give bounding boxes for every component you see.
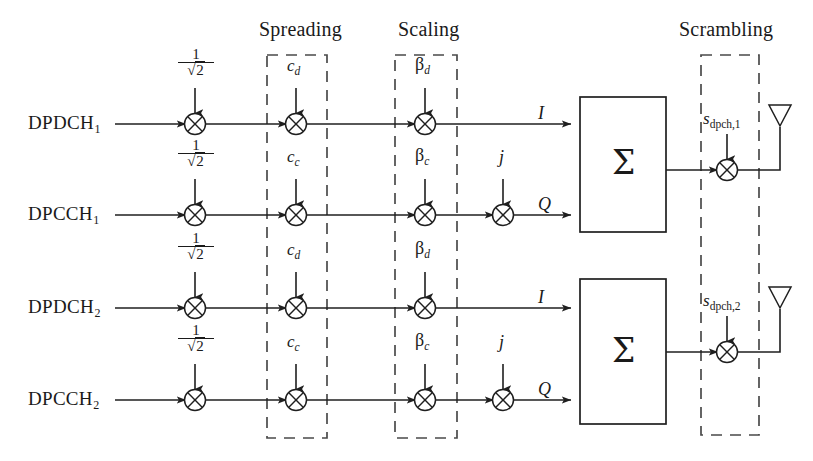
antenna-2-icon xyxy=(769,287,791,308)
gain-denominator: √2 xyxy=(178,154,214,169)
gain-denominator: √2 xyxy=(178,247,214,262)
beta-symbol: β xyxy=(415,330,424,350)
scrambling-code-label-1: sdpch,1 xyxy=(703,110,741,127)
input-label-subscript: 1 xyxy=(93,213,99,227)
branch-3-signal-path xyxy=(115,272,571,319)
input-label-dpcch-1: DPCCH1 xyxy=(28,204,99,223)
gain-label-4: 1 √2 xyxy=(178,323,214,355)
code-subscript: d xyxy=(295,249,301,261)
beta-symbol: β xyxy=(415,54,424,74)
code-symbol: c xyxy=(287,240,295,259)
input-label-dpcch-2: DPCCH2 xyxy=(28,389,99,408)
input-label-text: DPDCH xyxy=(28,296,94,317)
input-label-dpdch-2: DPDCH2 xyxy=(28,297,100,316)
beta-subscript: d xyxy=(424,64,430,76)
input-label-text: DPCCH xyxy=(28,203,93,224)
gain-label-2: 1 √2 xyxy=(178,138,214,170)
branch-4-signal-path xyxy=(115,364,571,411)
spreading-code-label-1: cd xyxy=(287,57,300,74)
spreading-code-label-2: cc xyxy=(287,148,300,165)
gain-radicand: 2 xyxy=(195,152,205,169)
beta-subscript: c xyxy=(424,155,429,167)
imaginary-unit-label-2: j xyxy=(499,148,504,166)
rail-label-i-1: I xyxy=(538,104,544,122)
scrambler-2-path xyxy=(666,309,780,363)
code-symbol: c xyxy=(287,332,295,351)
code-subscript: c xyxy=(295,341,300,353)
code-subscript: d xyxy=(295,65,301,77)
beta-symbol: β xyxy=(415,145,424,165)
rail-label-q-1: Q xyxy=(538,195,551,213)
gain-label-1: 1 √2 xyxy=(178,47,214,79)
input-label-dpdch-1: DPDCH1 xyxy=(28,113,100,132)
figure-canvas: Spreading Scaling Scrambling DPDCH1 1 √2… xyxy=(0,0,813,461)
gain-radicand: 2 xyxy=(195,245,205,262)
antenna-1-icon xyxy=(769,105,791,126)
scrambling-code-symbol: s xyxy=(703,109,710,128)
scrambling-code-label-2: sdpch,2 xyxy=(703,292,741,309)
scaling-gain-label-1: βd xyxy=(415,55,430,73)
beta-subscript: d xyxy=(424,248,430,260)
section-caption-scrambling: Scrambling xyxy=(679,19,773,39)
diagram-vector-layer xyxy=(0,0,813,461)
code-symbol: c xyxy=(287,147,295,166)
rail-label-i-2: I xyxy=(538,288,544,306)
scrambler-1-path xyxy=(666,127,780,181)
code-subscript: c xyxy=(295,156,300,168)
input-label-text: DPCCH xyxy=(28,388,93,409)
section-caption-scaling: Scaling xyxy=(398,19,459,39)
branch-1-signal-path xyxy=(115,88,571,135)
imaginary-unit-label-4: j xyxy=(499,333,504,351)
code-symbol: c xyxy=(287,56,295,75)
scaling-gain-label-4: βc xyxy=(415,331,429,349)
input-label-subscript: 1 xyxy=(94,122,100,136)
spreading-code-label-4: cc xyxy=(287,333,300,350)
input-label-subscript: 2 xyxy=(94,306,100,320)
spreading-code-label-3: cd xyxy=(287,241,300,258)
scrambling-code-symbol: s xyxy=(703,291,710,310)
scaling-gain-label-2: βc xyxy=(415,146,429,164)
gain-radicand: 2 xyxy=(195,61,205,78)
rail-label-q-2: Q xyxy=(538,380,551,398)
section-caption-spreading: Spreading xyxy=(259,19,342,39)
gain-denominator: √2 xyxy=(178,63,214,78)
gain-denominator: √2 xyxy=(178,339,214,354)
gain-label-3: 1 √2 xyxy=(178,231,214,263)
gain-radicand: 2 xyxy=(195,337,205,354)
summer-1-symbol: Σ xyxy=(612,146,635,179)
beta-symbol: β xyxy=(415,238,424,258)
branch-2-signal-path xyxy=(115,179,571,226)
summer-2-symbol: Σ xyxy=(612,334,635,367)
scrambling-code-subscript: dpch,2 xyxy=(710,300,741,312)
input-label-text: DPDCH xyxy=(28,112,94,133)
beta-subscript: c xyxy=(424,340,429,352)
scaling-gain-label-3: βd xyxy=(415,239,430,257)
scrambling-code-subscript: dpch,1 xyxy=(710,118,741,130)
input-label-subscript: 2 xyxy=(93,398,99,412)
